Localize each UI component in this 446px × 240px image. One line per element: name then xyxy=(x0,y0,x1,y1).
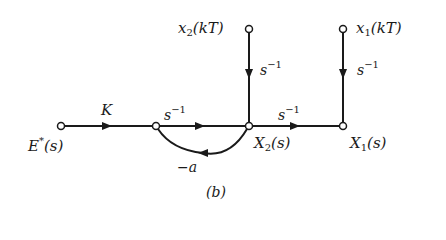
label-e-star: E*(s) xyxy=(28,136,63,154)
figure-caption: (b) xyxy=(206,185,226,199)
gain-k: K xyxy=(101,103,112,118)
arrowhead-k xyxy=(102,122,112,130)
label-x1-kt: x1(kT) xyxy=(356,21,402,38)
node-e-star xyxy=(58,123,65,130)
label-x2: X2(s) xyxy=(254,136,290,153)
arrowhead-n1-x2 xyxy=(195,122,205,130)
arrowhead-x2-x1 xyxy=(290,122,300,130)
gain-x1kt: s−1 xyxy=(357,60,379,77)
node-x1-kt xyxy=(340,26,347,33)
node-x2-kt xyxy=(246,26,253,33)
gain-x2kt: s−1 xyxy=(260,60,282,77)
arrowhead-feedback xyxy=(198,149,208,157)
gain-n1-x2: s−1 xyxy=(164,105,186,122)
branch-feedback-minus-a xyxy=(158,129,247,154)
arrowhead-x2kt xyxy=(245,69,253,79)
node-x1 xyxy=(340,123,347,130)
node-intermediate xyxy=(153,123,160,130)
gain-x2-x1: s−1 xyxy=(278,105,300,122)
label-x2-kt: x2(kT) xyxy=(178,21,224,38)
label-x1: X1(s) xyxy=(350,136,386,153)
node-x2 xyxy=(246,123,253,130)
gain-feedback: −a xyxy=(177,160,197,174)
arrowhead-x1kt xyxy=(339,69,347,79)
